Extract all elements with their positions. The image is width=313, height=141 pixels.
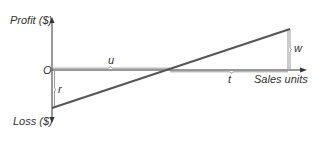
bracket-u bbox=[53, 67, 170, 69]
bracket-w bbox=[288, 30, 292, 70]
y-axis-top-label: Profit ($) bbox=[10, 14, 53, 26]
origin-label: O bbox=[43, 64, 52, 76]
bracket-r bbox=[55, 71, 57, 107]
break-even-diagram: Profit ($) Loss ($) O Sales units u t r … bbox=[0, 0, 313, 141]
right-arrow-icon bbox=[300, 68, 307, 73]
bracket-r-label: r bbox=[58, 83, 63, 95]
y-axis-bottom-label: Loss ($) bbox=[13, 115, 53, 127]
x-axis-label: Sales units bbox=[254, 73, 308, 85]
bracket-u-label: u bbox=[108, 54, 114, 66]
bracket-w-label: w bbox=[294, 42, 303, 54]
